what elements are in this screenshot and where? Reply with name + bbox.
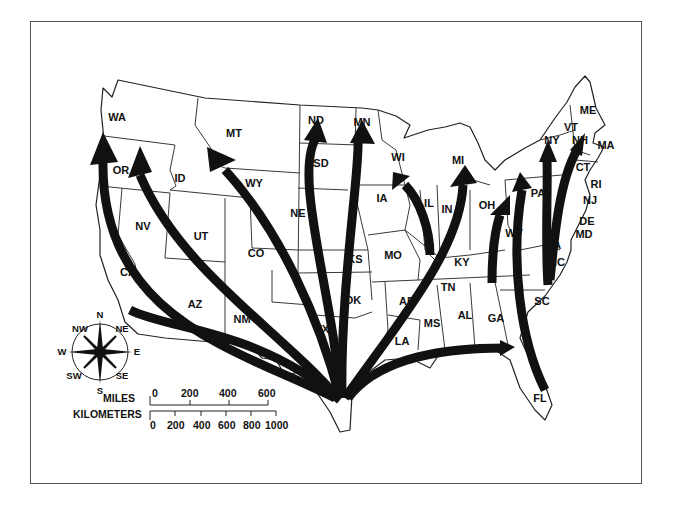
miles-label: MILES [103, 392, 135, 404]
state-label-ca: CA [120, 266, 136, 278]
state-label-ky: KY [454, 256, 470, 268]
state-label-mi: MI [452, 154, 464, 166]
state-label-il: IL [424, 197, 434, 209]
state-label-ar: AR [399, 295, 415, 307]
km-tick-200: 200 [167, 419, 185, 431]
state-label-ks: KS [347, 253, 362, 265]
compass-se: SE [116, 370, 129, 381]
state-label-wy: WY [245, 177, 263, 189]
miles-tick-200: 200 [181, 387, 199, 399]
state-label-az: AZ [188, 298, 203, 310]
state-label-ma: MA [597, 139, 614, 151]
state-label-ut: UT [194, 230, 209, 242]
km-tick-1000: 1000 [265, 419, 289, 431]
state-label-md: MD [575, 228, 592, 240]
state-label-wa: WA [108, 111, 126, 123]
state-label-or: OR [113, 164, 130, 176]
state-label-wi: WI [391, 151, 404, 163]
compass-n: N [97, 309, 104, 320]
us-map: WAORCANVIDMTWYUTCOAZNMNDSDNEKSOKTXMNIAMO… [0, 0, 677, 522]
state-label-nh: NH [572, 134, 588, 146]
kilometers-label: KILOMETERS [73, 408, 142, 420]
compass-rose: N NW NE W E SW SE S [58, 309, 141, 396]
compass-e: E [134, 346, 140, 357]
km-tick-0: 0 [150, 419, 156, 431]
miles-tick-0: 0 [152, 387, 158, 399]
state-label-vt: VT [564, 121, 578, 133]
state-label-ri: RI [591, 178, 602, 190]
compass-nw: NW [72, 323, 88, 334]
state-label-me: ME [580, 104, 597, 116]
state-label-ct: CT [576, 161, 591, 173]
state-label-tx: TX [315, 323, 330, 335]
state-label-la: LA [395, 335, 410, 347]
state-label-sd: SD [313, 157, 328, 169]
state-label-wv: WV [505, 227, 523, 239]
state-label-nm: NM [233, 313, 250, 325]
state-label-nj: NJ [583, 194, 597, 206]
km-tick-800: 800 [243, 419, 261, 431]
compass-ne: NE [115, 323, 128, 334]
state-label-de: DE [579, 215, 594, 227]
state-label-ms: MS [424, 317, 441, 329]
state-label-nv: NV [135, 220, 151, 232]
compass-sw: SW [66, 370, 81, 381]
state-label-mo: MO [384, 249, 402, 261]
state-label-nd: ND [308, 114, 324, 126]
state-label-va: VA [547, 239, 562, 251]
state-label-ny: NY [544, 134, 560, 146]
state-label-tn: TN [441, 281, 456, 293]
state-label-ia: IA [377, 192, 388, 204]
state-label-ne: NE [290, 207, 305, 219]
miles-tick-400: 400 [219, 387, 237, 399]
state-label-al: AL [458, 309, 473, 321]
state-label-mn: MN [353, 116, 370, 128]
state-label-nc: NC [549, 256, 565, 268]
state-label-co: CO [248, 247, 265, 259]
scale-bar: MILES 0 200 400 600 KILOMETERS 0 200 400… [73, 387, 289, 431]
state-label-sc: SC [534, 295, 549, 307]
state-label-in: IN [442, 203, 453, 215]
state-label-pa: PA [531, 187, 546, 199]
state-label-mt: MT [226, 127, 242, 139]
state-label-ok: OK [345, 294, 362, 306]
miles-tick-600: 600 [258, 387, 276, 399]
km-tick-600: 600 [218, 419, 236, 431]
state-label-ga: GA [488, 312, 505, 324]
state-label-oh: OH [479, 199, 496, 211]
compass-w: W [58, 346, 67, 357]
state-label-id: ID [175, 172, 186, 184]
km-tick-400: 400 [193, 419, 211, 431]
state-label-fl: FL [533, 392, 547, 404]
